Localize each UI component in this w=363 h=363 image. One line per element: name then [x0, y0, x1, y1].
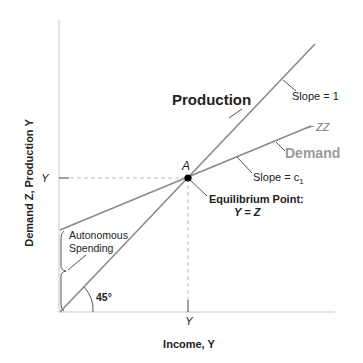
production-leader — [229, 109, 242, 118]
production-label: Production — [172, 91, 251, 108]
slope1-label: Slope = 1 — [292, 90, 339, 102]
slope-c-text: Slope = c — [253, 171, 300, 183]
y-axis-title: Demand Z, Production Y — [23, 119, 35, 247]
zz-label: ZZ — [315, 121, 331, 133]
demand-leader — [276, 142, 285, 151]
diagram-canvas: A Production Slope = 1 ZZ Demand Slope =… — [0, 0, 363, 363]
equilibrium-leader — [190, 180, 207, 196]
slope-c-label: Slope = c1 — [253, 171, 304, 186]
demand-label: Demand — [285, 145, 340, 161]
autonomous-label-line2: Spending — [69, 242, 114, 254]
y-tick-label: Y — [41, 172, 49, 184]
equilibrium-point-marker — [184, 174, 191, 181]
slopec-leader — [237, 157, 252, 173]
angle-label: 45° — [96, 291, 112, 303]
point-a-label: A — [181, 159, 190, 173]
x-tick-label: Y — [185, 315, 193, 327]
autonomous-leader — [68, 255, 86, 270]
x-axis-title: Income, Y — [163, 338, 215, 350]
autonomous-label-line1: Autonomous — [69, 229, 128, 241]
angle-arc — [84, 287, 93, 312]
autonomous-brace — [61, 231, 66, 311]
equilibrium-label-line2: Y = Z — [234, 206, 262, 218]
equilibrium-label-line1: Equilibrium Point: — [209, 193, 304, 205]
slope-c-subscript: 1 — [299, 177, 304, 186]
